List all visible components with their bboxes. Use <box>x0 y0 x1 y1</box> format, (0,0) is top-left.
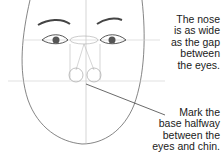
left-eyebrow <box>38 20 70 25</box>
nose-width-annotation: The nose is as wide as the gap between t… <box>150 14 220 71</box>
annotation-line: the eyes. <box>150 60 220 71</box>
annotation-line: between <box>150 48 220 59</box>
nose-base-annotation: Mark the base halfway between the eyes a… <box>140 107 220 153</box>
left-iris <box>53 37 60 44</box>
nose-triangle-right <box>84 44 94 70</box>
nose-triangle-left <box>76 44 84 70</box>
right-iris <box>109 37 116 44</box>
right-eyebrow <box>97 19 122 24</box>
face-outline <box>22 0 144 144</box>
nostril-right <box>87 68 101 82</box>
nostril-left <box>69 68 83 82</box>
annotation-line: eyes and chin. <box>140 141 220 152</box>
